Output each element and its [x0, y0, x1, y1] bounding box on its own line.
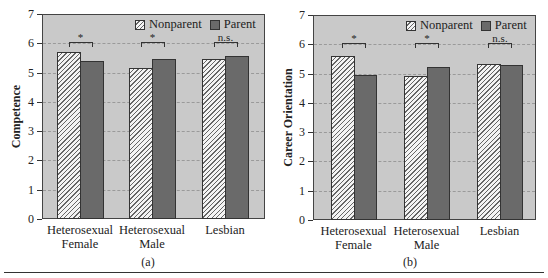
panel-label: (a): [133, 255, 163, 270]
legend-label-nonparent: Nonparent: [149, 17, 202, 32]
panel-a-competence: 01234567Competence*HeterosexualFemale*He…: [0, 0, 274, 270]
y-tick: [37, 43, 42, 44]
x-category-line: Lesbian: [460, 224, 540, 238]
y-tick-label: 0: [291, 214, 305, 226]
x-category-label: Lesbian: [185, 223, 265, 237]
panel-label: (b): [395, 255, 425, 270]
bar-parent-2: [225, 56, 249, 219]
y-tick-label: 0: [20, 213, 34, 225]
y-tick-label: 7: [291, 9, 305, 21]
y-tick: [308, 191, 313, 192]
x-category-line: Heterosexual: [40, 223, 120, 237]
x-category-label: HeterosexualFemale: [40, 223, 120, 251]
y-tick: [308, 161, 313, 162]
significance-marker: *: [332, 33, 376, 44]
legend-swatch-nonparent: [406, 21, 416, 31]
y-tick: [37, 102, 42, 103]
bar-nonparent-2: [202, 59, 226, 219]
x-category-line: Heterosexual: [112, 223, 192, 237]
y-tick: [308, 220, 313, 221]
x-category-line: Male: [387, 238, 467, 252]
legend-swatch-parent: [481, 21, 491, 31]
y-tick: [308, 15, 313, 16]
bar-parent-0: [354, 75, 378, 220]
y-axis-label: Career Orientation: [281, 37, 296, 197]
y-tick: [37, 14, 42, 15]
x-category-label: HeterosexualFemale: [314, 224, 394, 252]
legend: NonparentParent: [135, 17, 256, 32]
x-category-line: Heterosexual: [314, 224, 394, 238]
x-category-line: Male: [112, 237, 192, 251]
x-category-line: Female: [314, 238, 394, 252]
x-category-line: Female: [40, 237, 120, 251]
bar-parent-1: [427, 67, 451, 220]
y-tick: [37, 219, 42, 220]
significance-marker: *: [59, 32, 103, 43]
legend: NonparentParent: [406, 18, 527, 33]
significance-marker: n.s.: [204, 32, 248, 43]
panel-b-career-orientation: 01234567Career Orientation*HeterosexualF…: [274, 0, 548, 270]
legend-label-nonparent: Nonparent: [420, 18, 473, 33]
y-tick: [308, 132, 313, 133]
significance-marker: *: [405, 33, 449, 44]
y-tick: [308, 103, 313, 104]
y-tick: [308, 74, 313, 75]
significance-marker: *: [131, 32, 175, 43]
bar-nonparent-0: [331, 56, 355, 220]
bar-parent-0: [80, 61, 104, 219]
legend-label-parent: Parent: [495, 18, 527, 33]
bar-parent-2: [500, 65, 524, 220]
x-category-label: HeterosexualMale: [112, 223, 192, 251]
legend-label-parent: Parent: [224, 17, 256, 32]
y-tick: [37, 73, 42, 74]
y-tick-label: 7: [20, 8, 34, 20]
legend-swatch-parent: [210, 20, 220, 30]
y-tick: [37, 190, 42, 191]
y-tick: [308, 44, 313, 45]
x-category-line: Heterosexual: [387, 224, 467, 238]
y-tick: [37, 160, 42, 161]
bottom-rule: [4, 272, 544, 273]
bar-nonparent-1: [404, 76, 428, 220]
bar-nonparent-2: [477, 64, 501, 220]
bar-parent-1: [152, 59, 176, 219]
y-axis-label: Competence: [9, 36, 24, 196]
bar-nonparent-1: [129, 68, 153, 219]
x-category-label: Lesbian: [460, 224, 540, 238]
significance-marker: n.s.: [478, 33, 522, 44]
y-tick: [37, 131, 42, 132]
legend-swatch-nonparent: [135, 20, 145, 30]
x-category-label: HeterosexualMale: [387, 224, 467, 252]
bar-nonparent-0: [57, 52, 81, 219]
x-category-line: Lesbian: [185, 223, 265, 237]
